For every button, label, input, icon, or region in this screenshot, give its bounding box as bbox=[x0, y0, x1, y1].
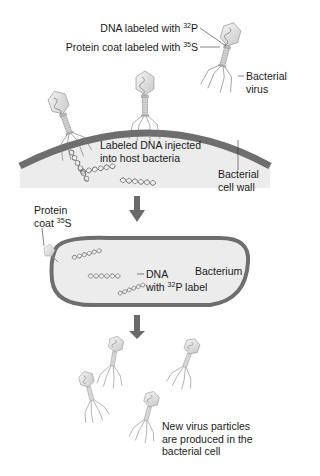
label-new-particles: New virus particlesare produced in theba… bbox=[162, 420, 252, 458]
label-protein-35s: Protein coat labeled with 35S bbox=[30, 41, 198, 54]
label-protein-coat: Proteincoat 35S bbox=[34, 204, 72, 229]
label-dna-32p-bacterium: DNAwith 32P label bbox=[146, 268, 207, 293]
arrow-down-2 bbox=[129, 315, 145, 339]
phage-free bbox=[200, 19, 248, 96]
label-dna-injected: Labeled DNA injectedinto host bacteria bbox=[100, 139, 201, 164]
label-dna-32p: DNA labeled with 32P bbox=[60, 22, 198, 35]
arrow-down-1 bbox=[129, 196, 145, 222]
label-cell-wall: Bacterialcell wall bbox=[218, 168, 259, 193]
label-bacterial-virus: Bacterialvirus bbox=[246, 70, 287, 95]
